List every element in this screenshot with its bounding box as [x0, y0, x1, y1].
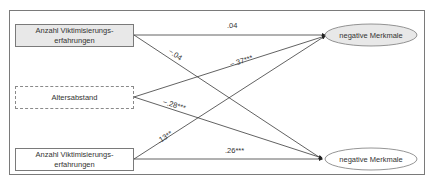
coefficient-p1-o1: .04	[227, 21, 237, 30]
predictor-label: Altersabstand	[52, 93, 98, 103]
outcome-label-bottom: negative Merkmale	[325, 153, 417, 165]
predictor-box-victimization-top: Anzahl Viktimisierungs- erfahrungen	[15, 24, 134, 47]
predictor-label-line2: erfahrungen	[36, 160, 114, 170]
predictor-box-victimization-bottom: Anzahl Viktimisierungs- erfahrungen	[15, 148, 134, 171]
predictor-label-line2: erfahrungen	[36, 36, 114, 46]
path-p2-o1	[134, 36, 325, 97]
predictor-label-line1: Anzahl Viktimisierungs-	[36, 150, 114, 160]
outcome-label-top: negative Merkmale	[325, 29, 417, 41]
predictor-label-line1: Anzahl Viktimisierungs-	[36, 26, 114, 36]
predictor-box-age-gap: Altersabstand	[15, 86, 134, 109]
coefficient-p3-o2: .26***	[225, 146, 244, 155]
